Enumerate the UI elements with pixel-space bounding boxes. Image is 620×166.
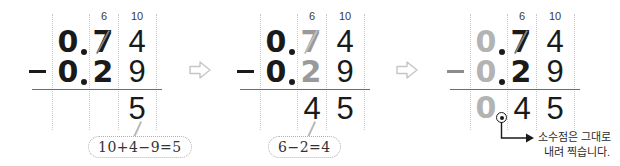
minuend-decimal-point: [81, 49, 87, 55]
subtrahend-tenths-digit: 2: [299, 57, 323, 87]
decimal-point-leader-arrow-icon: [500, 122, 536, 152]
column-guide-hundredths-left: [118, 14, 119, 130]
decimal-point-note-line-1: 소수점은 그대로: [538, 130, 611, 145]
column-guide-tenths-left: [507, 14, 508, 130]
column-guide-right-edge: [364, 14, 365, 130]
minuend-hundredths-digit: 4: [543, 26, 567, 57]
difference-hundredths-digit: 5: [333, 93, 357, 124]
minuend-ones-digit: 0: [264, 27, 288, 57]
minuend-decimal-point: [499, 49, 505, 55]
regroup-tenths-label: 6: [93, 11, 115, 22]
difference-hundredths-digit: 5: [125, 93, 149, 124]
minuend-hundredths-digit: 4: [333, 26, 357, 57]
transition-arrow-2: [396, 60, 418, 80]
subtraction-step-1: 6 10 0 7 4 0 2 9 5 10+4−9=5: [0, 0, 185, 166]
regroup-hundredths-label: 10: [126, 11, 148, 22]
subtrahend-ones-digit: 0: [56, 57, 80, 87]
subtrahend-ones-digit: 0: [264, 57, 288, 87]
column-guide-hundredths-left: [536, 14, 537, 130]
subtrahend-hundredths-digit: 9: [125, 56, 149, 87]
subtraction-operator-icon: [237, 70, 254, 73]
difference-hundredths-digit: 5: [543, 93, 567, 124]
minuend-hundredths-digit: 4: [125, 26, 149, 57]
column-guide-tenths-left: [89, 14, 90, 130]
subtraction-step-2: 6 10 0 7 4 0 2 9 4 5 6−2=4: [208, 0, 393, 166]
subtrahend-tenths-digit: 2: [509, 57, 533, 87]
column-guide-hundredths-left: [326, 14, 327, 130]
minuend-ones-digit: 0: [56, 27, 80, 57]
subtrahend-decimal-point: [499, 79, 505, 85]
regroup-hundredths-label: 10: [544, 11, 566, 22]
regroup-hundredths-label: 10: [334, 11, 356, 22]
subtraction-operator-icon: [29, 70, 46, 73]
regroup-tenths-label: 6: [511, 11, 533, 22]
subtraction-rule: [240, 89, 370, 90]
subtraction-step-3: 6 10 0 7 4 0 2 9 0 4 5 소수점은 그대로 내려 찍습니다.: [418, 0, 603, 166]
subtrahend-ones-digit: 0: [474, 57, 498, 87]
subtrahend-tenths-digit: 2: [91, 57, 115, 87]
subtrahend-hundredths-digit: 9: [333, 56, 357, 87]
decimal-point-note-line-2: 내려 찍습니다.: [544, 145, 610, 160]
subtraction-rule: [32, 89, 162, 90]
column-guide-tenths-left: [297, 14, 298, 130]
subtraction-rule: [450, 89, 580, 90]
subtrahend-hundredths-digit: 9: [543, 56, 567, 87]
minuend-decimal-point: [289, 49, 295, 55]
column-guide-ones-left: [470, 14, 471, 130]
callout-step-1: 10+4−9=5: [88, 136, 192, 158]
difference-tenths-digit: 4: [300, 93, 324, 124]
regroup-tenths-label: 6: [301, 11, 323, 22]
subtrahend-decimal-point: [289, 79, 295, 85]
column-guide-right-edge: [574, 14, 575, 130]
column-guide-right-edge: [156, 14, 157, 130]
column-guide-ones-left: [52, 14, 53, 130]
callout-step-2: 6−2=4: [268, 136, 341, 158]
minuend-ones-digit: 0: [474, 27, 498, 57]
column-guide-ones-left: [260, 14, 261, 130]
subtraction-operator-icon: [447, 70, 464, 73]
subtrahend-decimal-point: [81, 79, 87, 85]
difference-tenths-digit: 4: [510, 93, 534, 124]
difference-ones-digit: 0: [474, 93, 498, 123]
